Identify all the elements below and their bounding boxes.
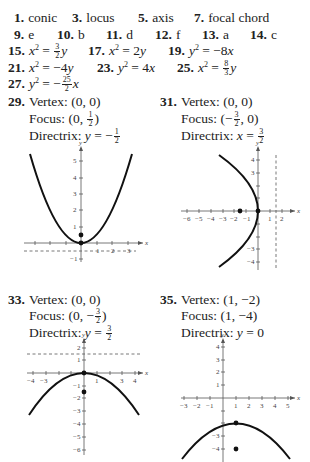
svg-text:2: 2 [111, 247, 115, 255]
svg-text:3: 3 [216, 356, 220, 364]
svg-text:4: 4 [133, 377, 137, 385]
answer-10: 10.b [57, 27, 85, 43]
svg-text:1: 1 [95, 377, 99, 385]
answer-7: 7.focal chord [194, 10, 269, 26]
equation-27: 27.y2 = −252x [8, 76, 79, 93]
svg-text:1: 1 [73, 223, 77, 231]
equation-17: 17.x2 = 2y [88, 43, 146, 59]
svg-text:−4: −4 [212, 445, 220, 453]
svg-text:3: 3 [73, 190, 77, 198]
answer-14: 14.c [250, 27, 277, 43]
svg-text:4: 4 [73, 174, 77, 182]
svg-text:1: 1 [77, 356, 81, 364]
answer-3: 3.locus [72, 10, 115, 26]
svg-text:5: 5 [73, 157, 77, 165]
svg-text:−2: −2 [73, 394, 81, 402]
svg-text:2: 2 [280, 215, 284, 223]
answer-13: 13.a [202, 27, 229, 43]
answer-9: 9.e [14, 27, 34, 43]
svg-text:y: y [255, 139, 260, 147]
svg-text:−3: −3 [40, 377, 48, 385]
svg-text:3: 3 [127, 247, 131, 255]
problem-33-vertex: 33.Vertex: (0, 0) [8, 292, 100, 308]
svg-text:−2: −2 [230, 215, 238, 223]
svg-text:5: 5 [286, 402, 290, 410]
svg-text:3: 3 [260, 402, 264, 410]
answer-12: 12.f [155, 27, 180, 43]
svg-text:2: 2 [247, 402, 251, 410]
svg-text:−6: −6 [183, 215, 191, 223]
svg-text:1: 1 [96, 247, 100, 255]
svg-text:−6: −6 [73, 446, 81, 454]
problem-33-focus: Focus: (0, −32) [29, 308, 107, 325]
svg-text:4: 4 [273, 402, 277, 410]
problem-31-focus: Focus: (−32, 0) [181, 111, 259, 128]
svg-text:−3: −3 [212, 432, 220, 440]
problem-29-focus: Focus: (0, 12) [29, 111, 99, 128]
svg-text:2: 2 [216, 368, 220, 376]
problem-29-vertex: 29.Vertex: (0, 0) [8, 94, 100, 110]
graph-35: x y −3 −2 −1 1 2 3 4 5 4 3 2 1 −3 −4 [155, 335, 310, 462]
svg-text:−3: −3 [73, 407, 81, 415]
equation-23: 23.y2 = 4x [97, 60, 155, 76]
svg-text:−1: −1 [70, 255, 78, 263]
svg-text:4: 4 [251, 156, 255, 164]
svg-text:x: x [144, 369, 149, 377]
problem-35-focus: Focus: (1, −4) [181, 308, 257, 324]
equation-25: 25.x2 = 83y [177, 60, 236, 77]
answer-11: 11.d [106, 27, 133, 43]
answer-5: 5.axis [138, 10, 174, 26]
svg-text:1: 1 [234, 402, 238, 410]
answer-1: 1.conic [14, 10, 57, 26]
svg-text:−5: −5 [195, 215, 203, 223]
problem-35-vertex: 35.Vertex: (1, −2) [160, 292, 260, 308]
svg-text:x: x [296, 394, 301, 402]
equation-21: 21.x2 = −4y [8, 60, 74, 76]
svg-text:2: 2 [73, 206, 77, 214]
svg-text:−4: −4 [27, 377, 35, 385]
graph-29: x y 1 2 3 5 4 3 2 1 −1 [0, 140, 155, 290]
svg-text:−3: −3 [219, 215, 227, 223]
svg-text:−1: −1 [206, 402, 214, 410]
svg-text:1: 1 [216, 381, 220, 389]
graph-31: x y −6 −5 −4 −3 −2 −1 1 2 4 3 −3 −4 [155, 140, 310, 290]
svg-text:1: 1 [268, 215, 272, 223]
svg-text:−3: −3 [180, 402, 188, 410]
graph-33: x y −4 −3 1 3 4 2 1 −1 −2 −3 −4 −5 −6 [0, 335, 155, 462]
svg-text:2: 2 [77, 344, 81, 352]
svg-text:−4: −4 [207, 215, 215, 223]
svg-text:3: 3 [251, 169, 255, 177]
equation-15: 15.x2 = 32y [8, 43, 67, 60]
svg-text:−2: −2 [193, 402, 201, 410]
svg-text:−5: −5 [73, 433, 81, 441]
equation-19: 19.y2 = −8x [168, 43, 234, 59]
svg-text:3: 3 [120, 377, 124, 385]
svg-text:4: 4 [216, 343, 220, 351]
svg-text:x: x [296, 207, 301, 215]
svg-text:−1: −1 [243, 215, 251, 223]
svg-text:−4: −4 [247, 258, 255, 266]
svg-text:−4: −4 [73, 420, 81, 428]
svg-text:y: y [78, 139, 83, 147]
svg-text:−1: −1 [73, 382, 81, 390]
problem-31-vertex: 31.Vertex: (0, 0) [160, 94, 252, 110]
svg-text:x: x [144, 239, 149, 247]
svg-text:−3: −3 [247, 245, 255, 253]
